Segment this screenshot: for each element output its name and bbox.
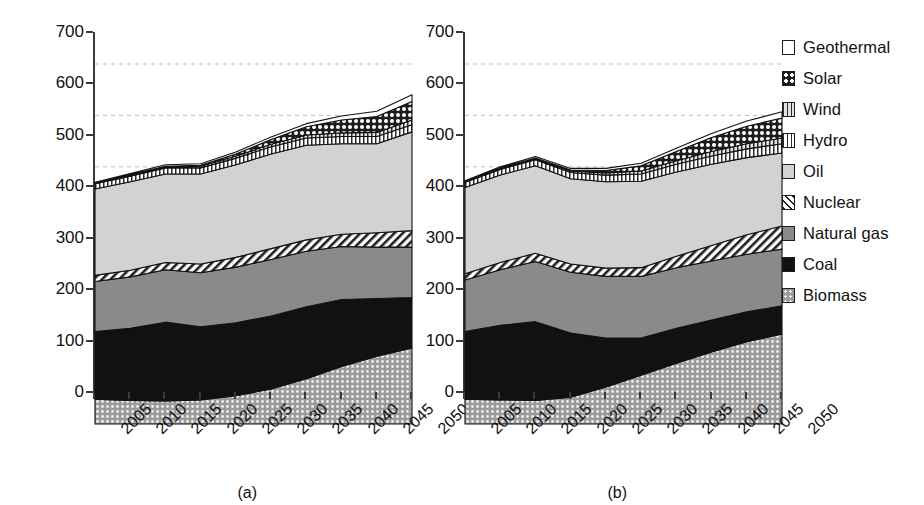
legend-label: Coal — [803, 255, 837, 274]
y-tick-label: 500 — [56, 125, 93, 145]
x-tick-mark — [375, 392, 377, 399]
solar-swatch-icon — [782, 71, 795, 86]
nuclear-swatch-icon — [782, 195, 795, 210]
x-tick-mark — [304, 392, 306, 399]
legend-label: Nuclear — [803, 193, 861, 212]
y-tick-label: 300 — [426, 228, 463, 248]
legend-item-hydro[interactable]: Hydro — [782, 125, 890, 156]
legend-item-solar[interactable]: Solar — [782, 63, 890, 94]
legend-item-coal[interactable]: Coal — [782, 249, 890, 280]
x-tick-mark — [569, 392, 571, 399]
x-tick-mark — [710, 392, 712, 399]
legend-label: Biomass — [803, 286, 867, 305]
x-tick-mark — [269, 392, 271, 399]
y-tick-label: 500 — [426, 125, 463, 145]
legend-item-nuclear[interactable]: Nuclear — [782, 187, 890, 218]
chart-panel-a: 0100200300400500600700200520102015202020… — [93, 0, 416, 505]
biomass-swatch-icon — [782, 288, 795, 303]
chart-legend: Geothermal Solar Wind Hydro Oil Nuclear … — [782, 32, 890, 311]
x-tick-label: 2050 — [804, 400, 842, 438]
plot-area-a — [93, 32, 412, 394]
x-tick-mark — [93, 392, 95, 399]
y-tick-label: 100 — [56, 331, 93, 351]
legend-item-geothermal[interactable]: Geothermal — [782, 32, 890, 63]
y-tick-label: 600 — [426, 73, 463, 93]
y-tick-label: 0 — [445, 382, 463, 402]
wind-swatch-icon — [782, 102, 795, 117]
legend-label: Natural gas — [803, 224, 888, 243]
x-tick-mark — [199, 392, 201, 399]
x-tick-mark — [639, 392, 641, 399]
natural-gas-swatch-icon — [782, 226, 795, 241]
x-tick-mark — [674, 392, 676, 399]
y-tick-label: 700 — [56, 22, 93, 42]
y-tick-label: 0 — [75, 382, 93, 402]
legend-label: Solar — [803, 69, 842, 88]
panel-caption-b: (b) — [608, 484, 628, 502]
hydro-swatch-icon — [782, 133, 795, 148]
x-tick-mark — [163, 392, 165, 399]
plot-area-b — [463, 32, 782, 394]
geothermal-swatch-icon — [782, 40, 795, 55]
x-tick-mark — [410, 392, 412, 399]
x-tick-mark — [340, 392, 342, 399]
coal-swatch-icon — [782, 257, 795, 272]
legend-label: Oil — [803, 162, 823, 181]
legend-item-wind[interactable]: Wind — [782, 94, 890, 125]
y-tick-label: 200 — [56, 279, 93, 299]
y-tick-label: 200 — [426, 279, 463, 299]
x-tick-mark — [498, 392, 500, 399]
y-tick-label: 100 — [426, 331, 463, 351]
legend-label: Hydro — [803, 131, 848, 150]
y-tick-label: 300 — [56, 228, 93, 248]
legend-item-biomass[interactable]: Biomass — [782, 280, 890, 311]
y-axis-title: Primary energy production (EJ) — [0, 0, 26, 70]
oil-swatch-icon — [782, 164, 795, 179]
legend-label: Geothermal — [803, 38, 890, 57]
x-tick-mark — [234, 392, 236, 399]
x-tick-mark — [780, 392, 782, 399]
x-tick-mark — [128, 392, 130, 399]
legend-item-natural-gas[interactable]: Natural gas — [782, 218, 890, 249]
y-tick-label: 400 — [426, 176, 463, 196]
x-tick-mark — [604, 392, 606, 399]
legend-item-oil[interactable]: Oil — [782, 156, 890, 187]
legend-label: Wind — [803, 100, 841, 119]
x-tick-mark — [533, 392, 535, 399]
x-tick-mark — [463, 392, 465, 399]
panel-caption-a: (a) — [238, 484, 258, 502]
y-tick-label: 700 — [426, 22, 463, 42]
y-tick-label: 600 — [56, 73, 93, 93]
chart-panel-b: 0100200300400500600700200520102015202020… — [463, 0, 786, 505]
x-tick-mark — [745, 392, 747, 399]
y-tick-label: 400 — [56, 176, 93, 196]
